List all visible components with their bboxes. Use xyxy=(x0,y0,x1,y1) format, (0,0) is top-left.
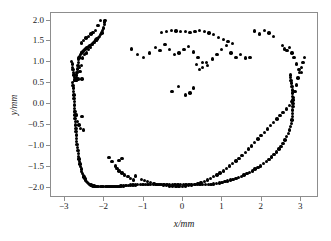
data-point xyxy=(303,56,306,59)
data-point xyxy=(168,48,171,51)
data-point xyxy=(160,31,163,34)
data-point xyxy=(258,32,261,35)
data-point xyxy=(244,56,247,59)
data-point xyxy=(295,83,298,86)
data-point xyxy=(77,61,80,64)
data-point xyxy=(201,61,204,64)
data-point xyxy=(281,111,284,114)
data-point xyxy=(77,77,80,80)
data-point xyxy=(225,44,228,47)
data-point xyxy=(296,76,299,79)
data-point xyxy=(80,77,83,80)
data-point xyxy=(154,46,157,49)
data-point xyxy=(82,128,85,131)
data-point xyxy=(259,134,262,137)
y-axis-title: y/mm xyxy=(9,95,19,116)
data-point xyxy=(142,56,145,59)
y-tick xyxy=(46,40,50,41)
data-point xyxy=(173,53,176,56)
scatter-plot-figure: x/mm y/mm −3−2−101232.01.51.00.50.0−0.5−… xyxy=(0,0,331,241)
data-point xyxy=(287,132,290,135)
data-point xyxy=(174,29,177,32)
data-point xyxy=(293,90,296,93)
data-point xyxy=(110,160,113,163)
data-point xyxy=(184,93,187,96)
data-point xyxy=(99,19,102,22)
y-tick xyxy=(46,145,50,146)
data-point xyxy=(275,150,278,153)
data-point xyxy=(136,53,139,56)
data-point xyxy=(263,131,266,134)
data-point xyxy=(206,64,209,67)
data-point xyxy=(226,40,229,43)
x-tick-label: −3 xyxy=(59,201,69,211)
data-point xyxy=(291,108,294,111)
data-point xyxy=(285,107,288,110)
data-point xyxy=(192,86,195,89)
data-point xyxy=(158,49,161,52)
data-point xyxy=(220,48,223,51)
data-point xyxy=(248,56,251,59)
y-tick-label: 1.5 xyxy=(33,35,44,45)
y-tick xyxy=(46,103,50,104)
data-point xyxy=(290,100,293,103)
data-point xyxy=(272,121,275,124)
x-axis-title: x/mm xyxy=(174,219,195,229)
data-point xyxy=(215,53,218,56)
y-tick-label: −1.5 xyxy=(28,161,44,171)
data-point xyxy=(80,64,83,67)
data-point xyxy=(281,142,284,145)
y-tick xyxy=(46,166,50,167)
data-point xyxy=(247,147,250,150)
data-point xyxy=(292,56,295,59)
data-point xyxy=(250,144,253,147)
data-point xyxy=(290,118,293,121)
data-point xyxy=(291,105,294,108)
data-point xyxy=(285,49,288,52)
data-point xyxy=(198,29,201,32)
data-point xyxy=(292,96,295,99)
data-point xyxy=(222,38,225,41)
data-point xyxy=(263,29,266,32)
data-point xyxy=(94,29,97,32)
data-point xyxy=(266,127,269,130)
data-point xyxy=(107,156,110,159)
data-point xyxy=(207,31,210,34)
data-point xyxy=(170,29,173,32)
data-point xyxy=(177,51,180,54)
data-point xyxy=(237,157,240,160)
data-point xyxy=(253,141,256,144)
data-point xyxy=(290,85,293,88)
data-point xyxy=(288,128,291,131)
y-tick-label: −2.0 xyxy=(28,182,44,192)
y-tick-label: −0.5 xyxy=(28,119,44,129)
data-point xyxy=(290,51,293,54)
data-point xyxy=(277,147,280,150)
plot-area xyxy=(50,12,318,197)
data-point xyxy=(130,47,133,50)
data-point xyxy=(279,145,282,148)
data-point xyxy=(196,56,199,59)
data-point xyxy=(295,62,298,65)
data-point xyxy=(240,154,243,157)
data-point xyxy=(89,46,92,49)
data-point xyxy=(283,138,286,141)
data-point xyxy=(193,30,196,33)
data-point xyxy=(182,48,185,51)
data-point xyxy=(212,33,215,36)
data-point xyxy=(290,122,293,125)
data-points-layer xyxy=(51,13,317,196)
data-point xyxy=(96,24,99,27)
x-tick-label: −2 xyxy=(98,201,108,211)
data-point xyxy=(184,30,187,33)
data-point xyxy=(78,70,81,73)
data-point xyxy=(81,56,84,59)
data-point xyxy=(239,53,242,56)
data-point xyxy=(231,42,234,45)
data-point xyxy=(256,137,259,140)
data-point xyxy=(75,113,78,116)
data-point xyxy=(288,46,291,49)
data-point xyxy=(289,79,292,82)
data-point xyxy=(134,174,137,177)
data-point xyxy=(244,151,247,154)
